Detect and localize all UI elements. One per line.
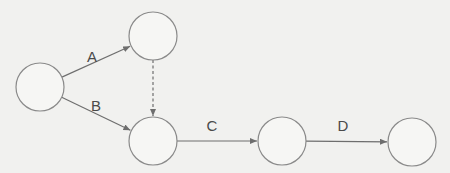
- nodes: [16, 12, 436, 166]
- edge-label-C: C: [207, 118, 218, 133]
- node-n4: [258, 117, 306, 165]
- node-n5: [388, 118, 436, 166]
- arrow-D: [306, 141, 387, 142]
- node-n3: [129, 117, 177, 165]
- edge-label-B: B: [91, 98, 101, 113]
- edge-label-A: A: [87, 49, 97, 64]
- edge-label-D: D: [338, 118, 349, 133]
- node-n2: [129, 12, 177, 60]
- network-diagram: [0, 0, 450, 173]
- node-n1: [16, 63, 64, 111]
